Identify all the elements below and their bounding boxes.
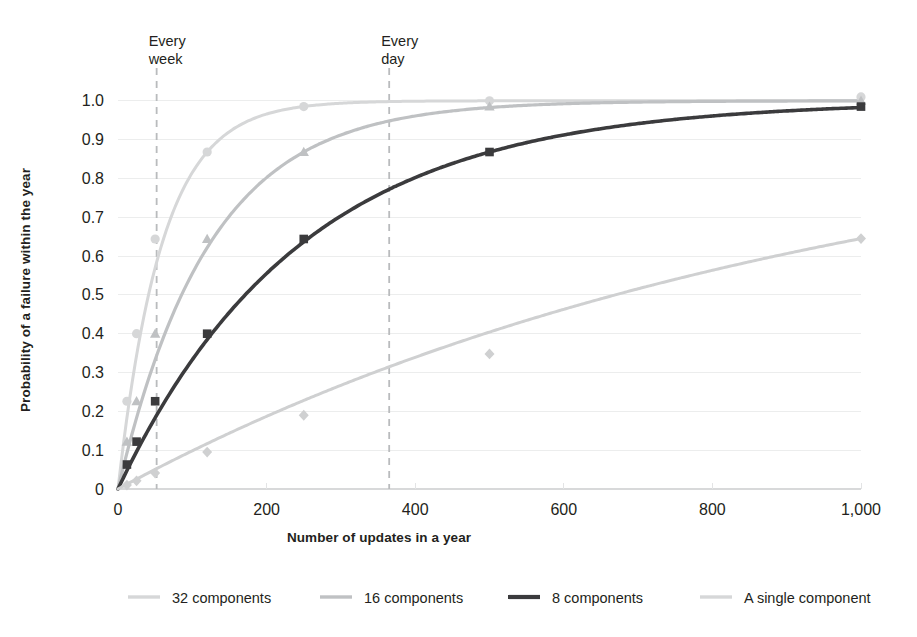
series-line — [118, 239, 861, 489]
annotations-group: EveryweekEveryday — [148, 33, 419, 67]
legend-item[interactable]: A single component — [700, 590, 871, 606]
y-tick-label: 0.2 — [82, 403, 104, 420]
y-tick-label: 0.6 — [82, 248, 104, 265]
x-tick-label: 200 — [253, 501, 280, 518]
x-tick-label: 400 — [402, 501, 429, 518]
y-tick-label: 0.3 — [82, 364, 104, 381]
y-tick-labels-group: 00.10.20.30.40.50.60.70.80.91.0 — [82, 92, 104, 497]
probability-line-chart: 00.10.20.30.40.50.60.70.80.91.0 02004006… — [0, 0, 917, 637]
y-tick-label: 0 — [95, 481, 104, 498]
data-point-marker — [151, 234, 160, 243]
annotation-label: Every — [381, 33, 419, 49]
data-point-marker — [202, 447, 212, 458]
data-point-marker — [485, 148, 494, 157]
y-tick-label: 0.1 — [82, 442, 104, 459]
data-point-marker — [485, 348, 495, 359]
chart-figure: 00.10.20.30.40.50.60.70.80.91.0 02004006… — [0, 0, 917, 637]
axis-lines-group — [118, 483, 861, 489]
data-point-marker — [151, 397, 160, 406]
y-tick-label: 1.0 — [82, 92, 104, 109]
x-tick-label: 800 — [699, 501, 726, 518]
x-axis-title: Number of updates in a year — [287, 530, 472, 545]
legend-item[interactable]: 8 components — [508, 590, 643, 606]
x-tick-label: 600 — [550, 501, 577, 518]
data-point-marker — [202, 234, 212, 243]
gridlines-group — [118, 101, 861, 489]
y-tick-label: 0.7 — [82, 209, 104, 226]
x-tick-labels-group: 02004006008001,000 — [114, 501, 882, 518]
data-point-marker — [856, 233, 866, 244]
data-point-marker — [299, 102, 308, 111]
legend-group[interactable]: 32 components16 components8 componentsA … — [128, 590, 871, 606]
y-tick-label: 0.5 — [82, 286, 104, 303]
y-tick-label: 0.9 — [82, 131, 104, 148]
data-point-marker — [857, 102, 866, 111]
data-point-marker — [132, 329, 141, 338]
y-tick-label: 0.8 — [82, 170, 104, 187]
annotation-label: Every — [149, 33, 187, 49]
data-point-marker — [299, 235, 308, 244]
legend-label: 16 components — [364, 590, 463, 606]
y-tick-label: 0.4 — [82, 325, 104, 342]
y-axis-title: Probability of a failure within the year — [18, 167, 33, 412]
legend-item[interactable]: 16 components — [320, 590, 463, 606]
data-point-marker — [150, 329, 160, 338]
data-point-marker — [150, 468, 160, 479]
x-tick-label: 1,000 — [841, 501, 881, 518]
legend-item[interactable]: 32 components — [128, 590, 271, 606]
x-tick-label: 0 — [114, 501, 123, 518]
data-point-marker — [203, 329, 212, 338]
annotation-label: week — [148, 51, 184, 67]
data-point-marker — [122, 397, 131, 406]
data-point-marker — [203, 147, 212, 156]
annotation-label: day — [381, 51, 405, 67]
legend-label: A single component — [744, 590, 871, 606]
legend-label: 32 components — [172, 590, 271, 606]
legend-label: 8 components — [552, 590, 643, 606]
data-point-marker — [123, 460, 132, 469]
data-point-marker — [132, 437, 141, 446]
